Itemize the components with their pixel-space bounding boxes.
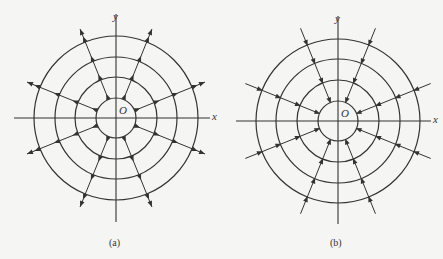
arrowhead-icon [311, 58, 315, 64]
arrowhead-icon [199, 149, 205, 153]
arrowhead-icon [319, 77, 323, 83]
panel-a-x-axis-label: x [212, 111, 217, 122]
arrowhead-icon [375, 136, 381, 140]
arrowhead-icon [80, 201, 84, 207]
field-line [134, 123, 205, 154]
arrowhead-icon [147, 29, 151, 35]
arrowhead-icon [256, 86, 262, 90]
arrowhead-icon [356, 109, 362, 113]
field-line [80, 29, 111, 100]
arrowhead-icon [147, 201, 151, 207]
field-line [134, 82, 205, 113]
arrowhead-icon [413, 86, 419, 90]
arrowhead-icon [311, 178, 315, 184]
arrowhead-icon [294, 136, 300, 140]
arrowhead-icon [375, 102, 381, 106]
field-line [121, 29, 152, 100]
arrowhead-icon [27, 82, 33, 86]
arrowhead-icon [353, 158, 357, 164]
panel-a-y-axis-label: y [113, 11, 118, 22]
arrowhead-icon [303, 196, 307, 202]
panel-b-x-axis-label: x [433, 114, 438, 125]
panel-b-caption: (b) [330, 238, 342, 248]
arrowhead-icon [319, 158, 323, 164]
arrowhead-icon [368, 196, 372, 202]
arrowhead-icon [275, 94, 281, 98]
field-line [27, 123, 98, 154]
arrowhead-icon [345, 97, 349, 103]
panel-b-inward-field [236, 16, 431, 224]
arrowhead-icon [345, 139, 349, 145]
panel-b-y-axis-label: y [335, 13, 340, 24]
arrowhead-icon [361, 58, 365, 64]
arrowhead-icon [314, 109, 320, 113]
arrowhead-icon [314, 128, 320, 132]
arrowhead-icon [413, 151, 419, 155]
arrowhead-icon [356, 128, 362, 132]
field-line [121, 136, 152, 207]
arrowhead-icon [326, 139, 330, 145]
field-line [27, 82, 98, 113]
arrowhead-icon [27, 149, 33, 153]
panel-a-origin-label: O [119, 105, 127, 116]
panel-a-caption: (a) [109, 238, 120, 248]
arrowhead-icon [353, 77, 357, 83]
arrowhead-icon [303, 39, 307, 45]
arrowhead-icon [368, 39, 372, 45]
arrowhead-icon [326, 97, 330, 103]
panel-a-outward-field [14, 14, 210, 222]
arrowhead-icon [199, 82, 205, 86]
panel-b-origin-label: O [341, 108, 349, 119]
arrowhead-icon [395, 144, 401, 148]
arrowhead-icon [395, 94, 401, 98]
diagram-canvas [0, 0, 443, 259]
arrowhead-icon [80, 29, 84, 35]
arrowhead-icon [275, 144, 281, 148]
arrowhead-icon [256, 151, 262, 155]
field-line [80, 136, 111, 207]
arrowhead-icon [294, 102, 300, 106]
arrowhead-icon [361, 178, 365, 184]
